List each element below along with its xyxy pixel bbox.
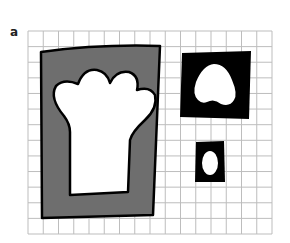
medium-black-panel: [180, 51, 251, 119]
egg-cutout: [202, 151, 218, 175]
large-gray-panel: [41, 46, 160, 218]
diagram-canvas: [0, 0, 290, 243]
small-black-panel: [195, 141, 225, 182]
